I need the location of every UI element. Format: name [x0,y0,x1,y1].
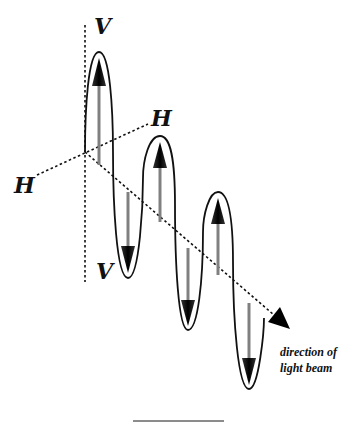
horizontal-axis [37,124,148,175]
oscillation-down-2 [175,205,203,330]
label-h-left: H [13,172,36,198]
label-v-bottom: V [96,258,115,284]
label-v-top: V [94,13,113,39]
oscillation-down-3 [233,262,264,389]
caption-line-2: light beam [280,361,332,375]
oscillation-up-1 [85,52,113,165]
oscillation-down-1 [113,152,143,278]
caption-line-1: direction of [280,345,338,359]
polarization-diagram: V V H H direction of light beam [0,0,356,432]
oscillation-up-3 [203,192,233,275]
oscillation-up-2 [143,136,175,222]
beam-arrow-head-icon [268,307,290,329]
label-h-right: H [150,105,173,131]
